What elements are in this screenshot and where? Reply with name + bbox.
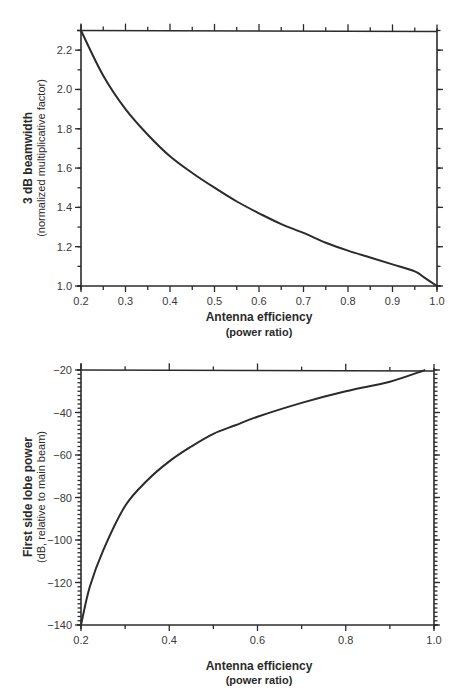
x-tick-label: 0.6 — [251, 295, 266, 307]
beamwidth-x-axis-sublabel: (power ratio) — [226, 326, 293, 338]
x-tick-label: 0.2 — [73, 295, 88, 307]
y-tick-label: 1.8 — [57, 123, 72, 135]
x-tick-label: 0.4 — [162, 634, 177, 646]
y-tick-label: −60 — [53, 449, 72, 461]
beamwidth-axes — [77, 25, 441, 291]
y-tick-label: 1.4 — [57, 201, 72, 213]
y-tick-label: 2.0 — [57, 83, 72, 95]
x-tick-label: 0.5 — [207, 295, 222, 307]
x-tick-label: 1.0 — [429, 295, 444, 307]
x-tick-label: 0.8 — [338, 634, 353, 646]
beamwidth-y-axis-label: 3 dB beamwidth — [21, 112, 35, 204]
side-lobe-curve — [81, 370, 425, 625]
y-tick-label: −140 — [47, 619, 72, 631]
charts-figure: 0.20.30.40.50.60.70.80.91.01.01.21.41.61… — [0, 0, 462, 696]
x-tick-label: 0.6 — [250, 634, 265, 646]
side-lobe-y-axis-label: First side lobe power — [21, 437, 35, 557]
y-tick-label: 1.0 — [57, 280, 72, 292]
top-frame-line — [77, 370, 434, 371]
side-lobe-ticks — [75, 363, 440, 631]
top-frame-line — [77, 31, 437, 32]
side-lobe-chart: 0.20.40.60.81.0−20−40−60−80−100−120−140 … — [21, 363, 442, 686]
beamwidth-ticks — [75, 24, 443, 293]
side-lobe-y-axis-sublabel: (dB, relative to main beam) — [35, 431, 47, 563]
beamwidth-tick-labels: 0.20.30.40.50.60.70.80.91.01.01.21.41.61… — [57, 44, 445, 307]
x-tick-label: 0.9 — [385, 295, 400, 307]
side-lobe-x-axis-sublabel: (power ratio) — [226, 674, 293, 686]
y-tick-label: 2.2 — [57, 44, 72, 56]
x-tick-label: 0.4 — [162, 295, 177, 307]
beamwidth-chart: 0.20.30.40.50.60.70.80.91.01.01.21.41.61… — [21, 24, 445, 339]
beamwidth-x-axis-label: Antenna efficiency — [206, 310, 313, 324]
x-tick-label: 0.8 — [340, 295, 355, 307]
beamwidth-curve — [81, 31, 437, 287]
side-lobe-x-axis-label: Antenna efficiency — [206, 659, 313, 673]
y-tick-label: −120 — [47, 577, 72, 589]
y-tick-label: −40 — [53, 407, 72, 419]
x-tick-label: 0.7 — [296, 295, 311, 307]
y-tick-label: −80 — [53, 492, 72, 504]
y-tick-label: 1.2 — [57, 241, 72, 253]
y-tick-label: 1.6 — [57, 162, 72, 174]
x-tick-label: 1.0 — [426, 634, 441, 646]
y-tick-label: −100 — [47, 534, 72, 546]
x-tick-label: 0.2 — [73, 634, 88, 646]
side-lobe-tick-labels: 0.20.40.60.81.0−20−40−60−80−100−120−140 — [47, 364, 441, 646]
x-tick-label: 0.3 — [118, 295, 133, 307]
y-tick-label: −20 — [53, 364, 72, 376]
beamwidth-y-axis-sublabel: (normalized multiplicative factor) — [35, 79, 47, 237]
